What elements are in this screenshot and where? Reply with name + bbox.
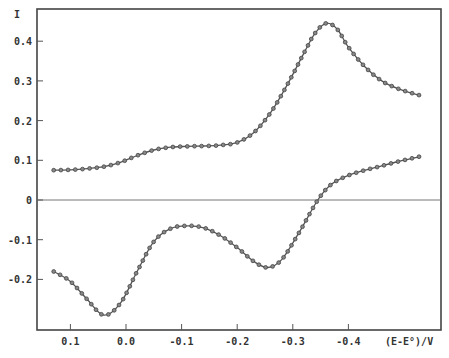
data-marker xyxy=(313,31,317,35)
data-marker xyxy=(361,169,365,173)
data-marker xyxy=(289,75,293,79)
data-marker xyxy=(152,240,156,244)
data-marker xyxy=(293,237,297,241)
data-marker xyxy=(251,259,255,263)
data-marker xyxy=(94,308,98,312)
data-marker xyxy=(129,156,133,160)
data-marker xyxy=(271,265,275,269)
data-marker xyxy=(410,91,414,95)
data-marker xyxy=(210,229,214,233)
y-tick-label: 0.4 xyxy=(14,36,32,47)
data-marker xyxy=(229,241,233,245)
data-marker xyxy=(297,231,301,235)
data-marker xyxy=(318,26,322,30)
data-marker xyxy=(319,194,323,198)
data-marker xyxy=(382,163,386,167)
data-marker xyxy=(347,46,351,50)
data-marker xyxy=(214,144,218,148)
data-marker xyxy=(66,168,70,172)
data-marker xyxy=(138,265,142,269)
data-marker xyxy=(81,167,85,171)
reverse-scan-series xyxy=(52,155,421,316)
data-marker xyxy=(340,34,344,38)
data-marker xyxy=(257,263,261,267)
series-line xyxy=(54,156,421,315)
data-marker xyxy=(221,143,225,147)
data-marker xyxy=(279,94,283,98)
data-marker xyxy=(143,151,147,155)
x-tick-label: -0.1 xyxy=(170,336,194,347)
x-tick-label: -0.2 xyxy=(225,336,249,347)
data-series xyxy=(52,22,421,317)
data-marker xyxy=(80,292,84,296)
data-marker xyxy=(75,286,79,290)
data-marker xyxy=(70,281,74,285)
data-marker xyxy=(417,155,421,159)
data-marker xyxy=(264,266,268,270)
data-marker xyxy=(303,50,307,54)
data-marker xyxy=(240,250,244,254)
data-marker xyxy=(150,149,154,153)
data-marker xyxy=(343,40,347,44)
y-tick-label: 0.1 xyxy=(14,155,32,166)
data-marker xyxy=(242,138,246,142)
data-marker xyxy=(390,84,394,88)
data-marker xyxy=(88,167,92,171)
data-marker xyxy=(185,145,189,149)
data-marker xyxy=(73,168,77,172)
data-marker xyxy=(417,93,421,97)
data-marker xyxy=(134,271,138,275)
data-marker xyxy=(377,77,381,81)
data-marker xyxy=(403,158,407,162)
data-marker xyxy=(217,233,221,237)
data-marker xyxy=(52,270,56,274)
data-marker xyxy=(64,277,68,281)
forward-scan-series xyxy=(52,22,421,173)
data-marker xyxy=(263,118,267,122)
data-marker xyxy=(282,255,286,259)
y-axis-label: I xyxy=(14,9,20,20)
data-marker xyxy=(183,224,187,228)
x-tick-label: 0.1 xyxy=(61,336,79,347)
data-marker xyxy=(290,243,294,247)
data-marker xyxy=(309,37,313,41)
data-marker xyxy=(331,23,335,27)
data-marker xyxy=(175,225,179,229)
data-marker xyxy=(336,28,340,32)
data-marker xyxy=(109,163,113,167)
data-marker xyxy=(277,261,281,265)
data-marker xyxy=(89,302,93,306)
data-marker xyxy=(403,89,407,93)
data-marker xyxy=(100,312,104,316)
data-marker xyxy=(306,44,310,48)
data-marker xyxy=(254,129,258,133)
y-tick-label: 0 xyxy=(26,195,32,206)
data-marker xyxy=(396,160,400,164)
y-tick-label: 0.3 xyxy=(14,76,32,87)
data-marker xyxy=(178,145,182,149)
data-marker xyxy=(59,168,63,172)
x-axis-ticks: 0.10.0-0.1-0.2-0.3-0.4 xyxy=(61,324,360,347)
data-marker xyxy=(275,101,279,105)
data-marker xyxy=(85,297,89,301)
x-tick-label: -0.4 xyxy=(336,336,360,347)
data-marker xyxy=(107,313,111,317)
data-marker xyxy=(296,63,300,67)
data-marker xyxy=(125,291,129,295)
data-marker xyxy=(245,254,249,258)
data-marker xyxy=(356,58,360,62)
data-marker xyxy=(229,142,233,146)
y-tick-label: -0.1 xyxy=(8,235,32,246)
data-marker xyxy=(341,176,345,180)
data-marker xyxy=(141,259,145,263)
data-marker xyxy=(311,206,315,210)
data-marker xyxy=(116,161,120,165)
data-marker xyxy=(361,63,365,67)
data-marker xyxy=(123,159,127,163)
data-marker xyxy=(352,52,356,56)
data-marker xyxy=(95,166,99,170)
data-marker xyxy=(286,250,290,254)
data-marker xyxy=(315,200,319,204)
data-marker xyxy=(131,278,135,282)
data-marker xyxy=(348,173,352,177)
